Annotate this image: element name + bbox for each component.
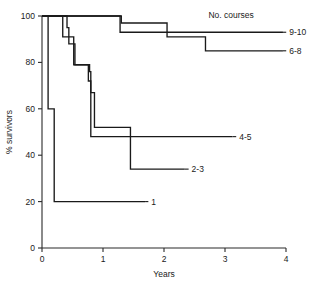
x-tick-label-0: 0 <box>40 254 45 264</box>
y-tick-label-1: 20 <box>26 197 36 207</box>
series-label-2-3: 2-3 <box>192 164 205 174</box>
series-label-1: 1 <box>151 197 156 207</box>
series-labels-group: 9-106-84-52-31 <box>145 27 306 206</box>
survival-curve-1 <box>42 16 145 202</box>
y-tick-label-3: 60 <box>26 104 36 114</box>
kaplan-meier-chart: 01234020406080100 9-106-84-52-31 Years% … <box>0 0 311 283</box>
survival-curves-group <box>42 16 283 202</box>
series-label-4-5: 4-5 <box>239 132 252 142</box>
y-axis-title: % survivors <box>4 110 14 154</box>
series-label-9-10: 9-10 <box>289 27 306 37</box>
y-tick-label-0: 0 <box>30 243 35 253</box>
x-tick-label-1: 1 <box>101 254 106 264</box>
plot-area: 01234020406080100 9-106-84-52-31 Years% … <box>0 0 311 283</box>
survival-curve-4-5 <box>42 16 232 137</box>
x-tick-label-4: 4 <box>284 254 289 264</box>
legend-title: No. courses <box>208 10 253 20</box>
survival-curve-2-3 <box>42 16 185 169</box>
x-tick-label-3: 3 <box>223 254 228 264</box>
series-label-6-8: 6-8 <box>289 46 302 56</box>
y-tick-label-4: 80 <box>26 57 36 67</box>
survival-curve-6-8 <box>42 16 283 51</box>
x-tick-label-2: 2 <box>162 254 167 264</box>
y-tick-label-5: 100 <box>21 11 35 21</box>
y-tick-label-2: 40 <box>26 150 36 160</box>
x-axis-title: Years <box>153 269 174 279</box>
